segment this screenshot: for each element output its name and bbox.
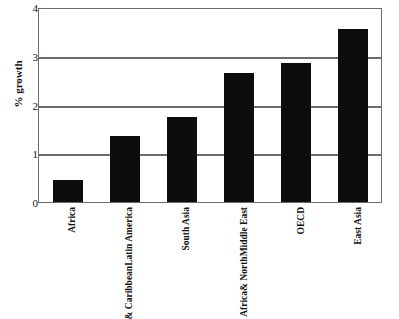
- x-category-label-line: East Asia: [353, 207, 364, 245]
- x-category-label-line: & North: [239, 256, 250, 291]
- x-category-label-line: Middle East: [239, 207, 250, 256]
- x-category: Latin America& Caribbean: [95, 205, 152, 278]
- bar-slot: [210, 9, 267, 202]
- x-category-label: Africa: [67, 207, 78, 233]
- bar-slot: [153, 9, 210, 202]
- x-category-label: OECD: [296, 207, 307, 234]
- y-tick-label: 0: [18, 197, 38, 209]
- x-category-label: East Asia: [353, 207, 364, 245]
- x-category-label: Middle East& NorthAfrica: [239, 207, 250, 317]
- x-category: South Asia: [153, 205, 210, 278]
- x-category-label-line: OECD: [296, 207, 307, 234]
- x-category: OECD: [267, 205, 324, 278]
- x-axis-category-labels: AfricaLatin America& CaribbeanSouth Asia…: [38, 205, 382, 278]
- bar[interactable]: [224, 73, 254, 202]
- x-category-label-line: Latin America: [124, 207, 135, 266]
- x-category-label-line: South Asia: [181, 207, 192, 251]
- x-category-label: South Asia: [181, 207, 192, 251]
- bar[interactable]: [338, 29, 368, 202]
- bar-slot: [39, 9, 96, 202]
- y-tick-label: 4: [18, 2, 38, 14]
- bar-slot: [267, 9, 324, 202]
- bar-slot: [324, 9, 381, 202]
- x-category-label-line: & Caribbean: [124, 266, 135, 319]
- x-category-label-line: Africa: [67, 207, 78, 233]
- bar-series: [39, 9, 381, 202]
- x-category-label-line: Africa: [239, 291, 250, 317]
- x-category: Middle East& NorthAfrica: [210, 205, 267, 278]
- bar[interactable]: [167, 117, 197, 202]
- plot-area: [38, 8, 382, 203]
- x-category: East Asia: [325, 205, 382, 278]
- bar-slot: [96, 9, 153, 202]
- y-tick-label: 2: [18, 100, 38, 112]
- bar[interactable]: [53, 180, 83, 202]
- bar[interactable]: [110, 136, 140, 202]
- y-tick-label: 3: [18, 51, 38, 63]
- x-category: Africa: [38, 205, 95, 278]
- y-axis-tick-labels: 01234: [18, 0, 38, 210]
- bar[interactable]: [281, 63, 311, 202]
- x-category-label: Latin America& Caribbean: [124, 207, 135, 319]
- y-tick-label: 1: [18, 148, 38, 160]
